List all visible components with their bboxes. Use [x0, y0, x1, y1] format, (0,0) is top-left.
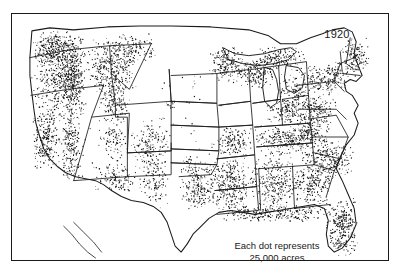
legend-caption: Each dot represents 25,000 acres	[214, 240, 340, 264]
border-nd-sd	[171, 74, 217, 104]
dot-cluster	[302, 98, 336, 123]
dot-cluster	[255, 125, 311, 156]
border-ma-ct	[342, 74, 360, 76]
dot-cluster	[211, 128, 251, 157]
dot-layer	[31, 31, 369, 256]
map-frame: 1920 Each dot represents 25,000 acres	[11, 13, 389, 261]
border-ks-ok	[171, 149, 219, 165]
border-or-ca	[31, 85, 104, 95]
dot-cluster	[260, 47, 305, 70]
legend-line-1: Each dot represents	[214, 240, 340, 252]
year-label: 1920	[312, 28, 362, 40]
dot-cluster	[61, 109, 82, 179]
border-vt-nh	[340, 52, 342, 72]
border-mt-wy	[111, 70, 171, 106]
dot-density-map	[12, 14, 388, 260]
dot-cluster	[159, 76, 221, 171]
dot-cluster	[63, 128, 93, 179]
dot-cluster	[138, 153, 168, 201]
baja-california-inner	[74, 222, 102, 252]
border-nc-va	[312, 137, 348, 159]
dot-cluster	[131, 118, 168, 173]
border-ia-mo	[219, 101, 253, 127]
figure-canvas: 1920 Each dot represents 25,000 acres	[0, 0, 404, 280]
dot-cluster	[295, 167, 330, 204]
border-sd-ne	[171, 101, 219, 127]
dot-cluster	[250, 157, 300, 211]
dot-cluster	[33, 107, 62, 169]
baja-california-outline	[64, 226, 96, 258]
dot-cluster	[222, 205, 327, 222]
dot-cluster	[98, 123, 127, 162]
dot-cluster	[340, 38, 369, 77]
border-va-wv-md	[308, 115, 348, 137]
legend-line-2: 25,000 acres	[214, 252, 340, 264]
dot-cluster	[35, 31, 71, 64]
dot-cluster	[180, 164, 214, 209]
border-ok-tx	[171, 163, 217, 177]
